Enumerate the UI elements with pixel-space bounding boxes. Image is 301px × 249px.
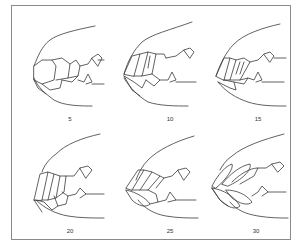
jaw-drawing-stage-30 (200, 130, 292, 230)
stage-label: 5 (60, 116, 80, 122)
jaw-drawing-stage-5 (20, 18, 112, 118)
panel-stage-15: 15 (200, 18, 292, 130)
panel-stage-20: 20 (20, 130, 112, 242)
jaw-drawing-stage-25 (112, 130, 204, 230)
stage-label: 10 (160, 116, 180, 122)
jaw-drawing-stage-20 (20, 130, 112, 230)
stage-label: 30 (246, 228, 266, 234)
panel-stage-5: 5 (20, 18, 112, 130)
stage-label: 15 (248, 116, 268, 122)
jaw-drawing-stage-15 (200, 18, 292, 118)
jaw-drawing-stage-10 (112, 18, 204, 118)
stage-label: 25 (160, 228, 180, 234)
figure-frame: 5 10 (11, 5, 291, 240)
panel-stage-25: 25 (112, 130, 204, 242)
panel-stage-30: 30 (200, 130, 292, 242)
stage-label: 20 (60, 228, 80, 234)
panel-stage-10: 10 (112, 18, 204, 130)
